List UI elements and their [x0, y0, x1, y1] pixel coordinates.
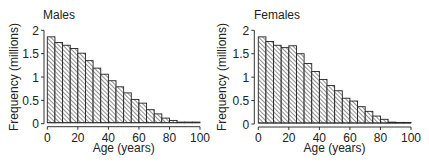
histogram-bar: [274, 45, 282, 123]
y-tick-label: 2: [243, 24, 250, 38]
y-tick-label: 1: [243, 71, 250, 85]
histogram-bar: [373, 116, 381, 123]
y-tick-label: 1.5: [22, 47, 39, 61]
histogram-bar: [296, 54, 304, 123]
histogram-bar: [131, 99, 139, 122]
histogram-bar: [281, 48, 289, 123]
panel-title: Females: [254, 8, 300, 22]
histogram-bar: [380, 119, 388, 123]
y-tick-label: 1: [32, 71, 39, 85]
histogram-bar: [78, 53, 86, 123]
histogram-bar: [93, 68, 101, 123]
y-tick-label: 2: [32, 24, 39, 38]
histogram-bar: [55, 42, 63, 122]
x-tick-label: 80: [374, 131, 388, 145]
x-tick-label: 100: [190, 131, 210, 145]
histogram-bar: [108, 81, 116, 123]
chart-canvas: Males Frequency (millions) Age (years) 0…: [0, 0, 429, 164]
histogram-bar: [124, 93, 132, 123]
histogram-bar: [139, 103, 147, 123]
y-tick-label: 0: [32, 117, 39, 131]
histogram-bar: [342, 98, 350, 123]
histogram-bar: [266, 42, 274, 123]
histogram-bar: [70, 49, 78, 123]
histogram-bar: [162, 118, 170, 123]
panel-males: Males Frequency (millions) Age (years) 0…: [7, 8, 210, 155]
x-tick-label: 40: [313, 131, 327, 145]
x-tick-label: 80: [163, 131, 177, 145]
histogram-bar: [350, 101, 358, 123]
x-tick-label: 40: [102, 131, 116, 145]
histogram-bar: [154, 114, 162, 123]
x-tick-label: 100: [401, 131, 421, 145]
x-tick-label: 60: [343, 131, 357, 145]
figure: Males Frequency (millions) Age (years) 0…: [0, 0, 429, 164]
histogram-bar: [147, 110, 155, 123]
x-tick-label: 20: [282, 131, 296, 145]
panel-title: Males: [43, 8, 75, 22]
y-tick-label: 0.5: [233, 94, 250, 108]
histogram-bar: [365, 111, 373, 123]
histogram-bar: [304, 64, 312, 123]
y-axis-label: Frequency (millions): [7, 23, 21, 131]
histogram-bar: [258, 37, 266, 123]
y-tick-label: 1.5: [233, 47, 250, 61]
y-tick-label: 0: [243, 118, 250, 132]
x-tick-label: 0: [44, 131, 51, 145]
histogram-bar: [335, 91, 343, 123]
bar-series: [258, 37, 411, 123]
histogram-bar: [101, 74, 109, 123]
x-tick-label: 20: [71, 131, 85, 145]
y-axis-label: Frequency (millions): [215, 23, 229, 131]
y-tick-label: 0.5: [22, 94, 39, 108]
histogram-bar: [312, 72, 320, 123]
histogram-bar: [358, 107, 366, 123]
histogram-bar: [85, 61, 93, 123]
histogram-bar: [327, 86, 335, 123]
bar-series: [47, 37, 200, 123]
x-tick-label: 0: [255, 131, 262, 145]
x-tick-label: 60: [132, 131, 146, 145]
histogram-bar: [63, 45, 71, 122]
histogram-bar: [47, 37, 55, 123]
histogram-bar: [289, 46, 297, 123]
panel-females: Females Frequency (millions) Age (years)…: [215, 8, 421, 155]
histogram-bar: [319, 79, 327, 123]
histogram-bar: [116, 87, 124, 123]
